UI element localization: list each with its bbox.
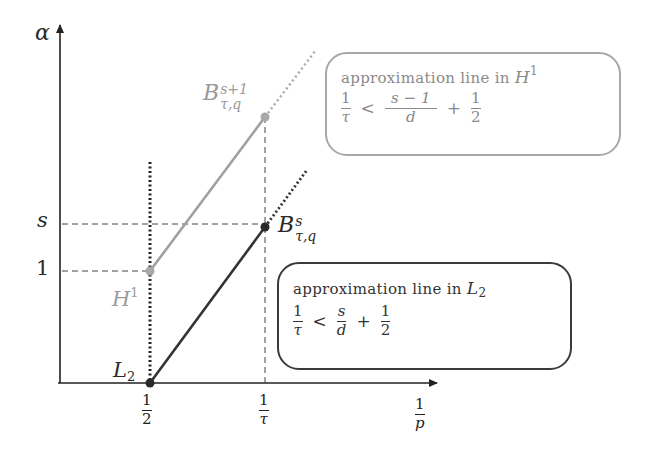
point-b-s [261, 223, 270, 232]
label-b-s1: Bs+1τ,q [203, 82, 248, 111]
x-tick-half: 12 [142, 393, 152, 428]
l2-approximation-box: approximation line in L2 1τ < sd + 12 [277, 262, 572, 370]
y-axis-label: α [35, 22, 50, 44]
point-h1 [146, 267, 155, 276]
l2-approx-line [150, 227, 265, 383]
y-tick-1: 1 [36, 258, 49, 279]
label-l2: L2 [113, 360, 135, 383]
h1-approx-line-extension [265, 50, 316, 117]
y-tick-s: s [37, 210, 48, 231]
h1-box-title: approximation line in H1 [341, 64, 607, 87]
l2-box-title: approximation line in L2 [293, 278, 558, 300]
label-h1: H1 [112, 286, 139, 310]
label-b-s: Bsτ,q [278, 214, 316, 243]
l2-inequality: 1τ < sd + 12 [293, 304, 558, 339]
h1-approx-line [150, 117, 265, 271]
x-tick-tau: 1τ [259, 393, 269, 428]
h1-approximation-box: approximation line in H1 1τ < s − 1d + 1… [325, 52, 621, 156]
point-b-s1 [261, 113, 270, 122]
point-l2 [146, 379, 155, 388]
x-axis-label: 1p [415, 397, 425, 432]
h1-inequality: 1τ < s − 1d + 12 [341, 91, 607, 126]
